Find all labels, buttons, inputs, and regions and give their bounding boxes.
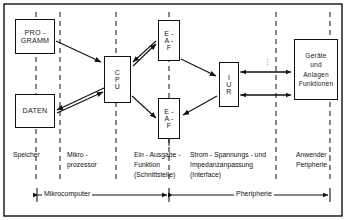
arrow-programm-to-cpu [56, 41, 101, 62]
block-programm-line-2: GRAMM [21, 37, 50, 44]
block-ein-ausgabe-funktion-top[interactable]: E - A - F [158, 20, 180, 61]
arrow-daten-to-cpu [57, 92, 103, 113]
block-iur-line-3: R [226, 88, 231, 95]
block-geraete-und-anlagen-funktionen[interactable]: Geräte und Anlagen Funktionen [294, 39, 338, 100]
arrow-cpu-to-daten [57, 88, 104, 110]
block-iur-line-1: I [228, 74, 230, 81]
block-iur-line-2: U [226, 81, 231, 88]
block-eaf-top-line-3: F [167, 44, 171, 51]
arrow-cpu-to-eaf-bottom [132, 96, 156, 118]
block-eaf-top-line-2: A - [164, 37, 173, 44]
block-iur[interactable]: I U R [219, 62, 239, 107]
caption-anwender-peripherie: Anwender - Peripherie [296, 150, 331, 170]
block-ein-ausgabe-funktion-bottom[interactable]: E - A - F [158, 98, 180, 139]
block-geraete-line-3: Anlagen [303, 70, 329, 79]
arrow-iur-to-eaf-bottom [183, 96, 217, 115]
block-cpu[interactable]: C P U [104, 56, 131, 103]
block-eaf-bottom-line-2: A - [164, 115, 173, 122]
caption-mikroprozessor: Mikro - prozessor [67, 150, 97, 170]
block-daten[interactable]: DATEN [15, 94, 55, 128]
arrow-eaf-top-cpu [133, 41, 156, 62]
caption-interface: Strom - Spannungs - und Impedanzanpassun… [190, 150, 266, 180]
block-cpu-line-2: P [115, 76, 120, 83]
block-geraete-line-2: und [310, 60, 322, 69]
block-eaf-top-line-1: E - [164, 30, 174, 37]
arrow-cpu-eaf-top [133, 44, 156, 66]
diagram-canvas: PRO - GRAMM DATEN C P U E - A - F E - A … [0, 0, 346, 220]
block-eaf-bottom-line-3: F [167, 122, 171, 129]
bracket-label-mikrocomputer: Mikrocomputer [42, 190, 92, 197]
arrow-eaf-top-to-iur [181, 59, 216, 76]
block-cpu-line-1: C [115, 69, 120, 76]
block-programm[interactable]: PRO - GRAMM [15, 19, 55, 54]
block-daten-line-1: DATEN [23, 107, 48, 114]
bracket-label-peripherie: Pheripherie [234, 190, 274, 197]
block-cpu-line-3: U [115, 83, 120, 90]
caption-ein-ausgabe-funktion: Ein - Ausgabe - Funktion (Schnittstelle) [134, 150, 180, 180]
block-eaf-bottom-line-1: E - [164, 108, 174, 115]
vertical-ellipsis-glyph: ⋮ [264, 58, 271, 65]
vertical-ellipsis-icon: ⋮ [264, 60, 271, 63]
block-geraete-line-1: Geräte [305, 51, 326, 60]
block-geraete-line-4: Funktionen [299, 79, 334, 88]
caption-speicher: Speicher [13, 150, 40, 160]
